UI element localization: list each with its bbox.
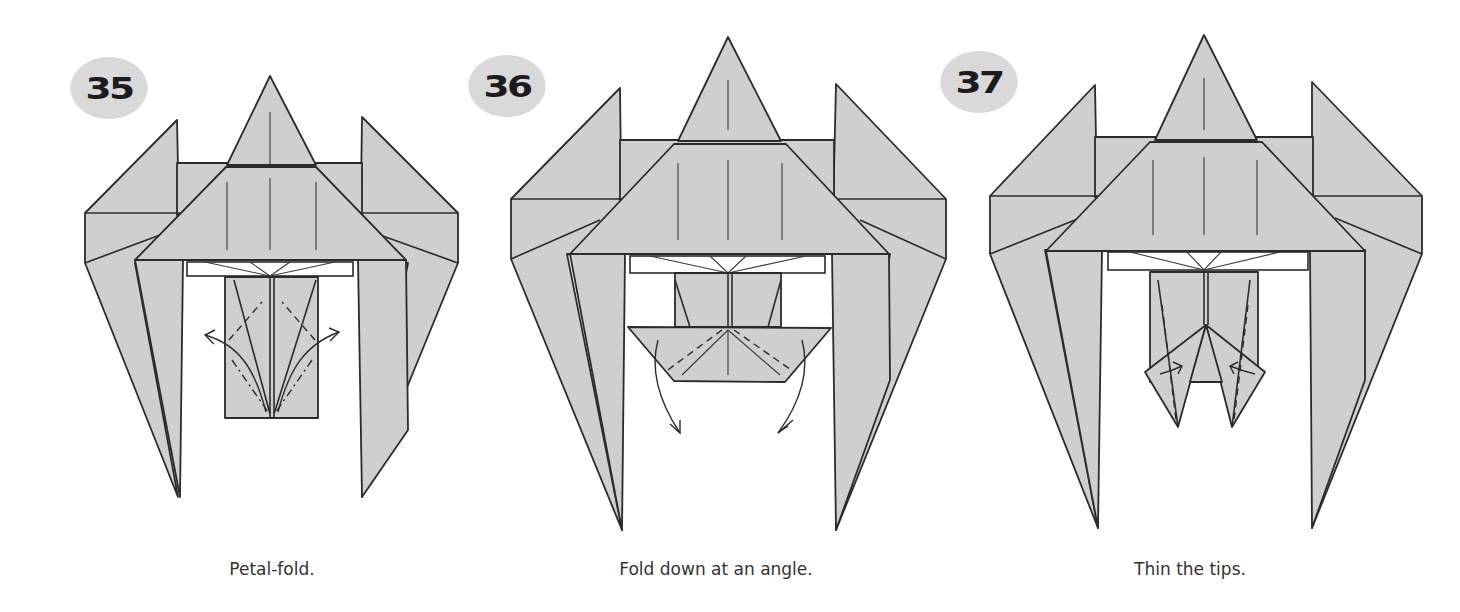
thin-tips-diagram-icon: [960, 0, 1460, 540]
petal-fold-diagram-icon: [0, 0, 480, 540]
step-37: 37 Thin the ti: [960, 0, 1460, 612]
step-caption: Petal-fold.: [229, 559, 314, 579]
step-caption: Thin the tips.: [1134, 559, 1246, 579]
step-35: 35: [0, 0, 480, 612]
step-caption: Fold down at an angle.: [619, 559, 812, 579]
step-36: 36 Fold down a: [480, 0, 960, 612]
fold-down-angle-diagram-icon: [480, 0, 960, 540]
